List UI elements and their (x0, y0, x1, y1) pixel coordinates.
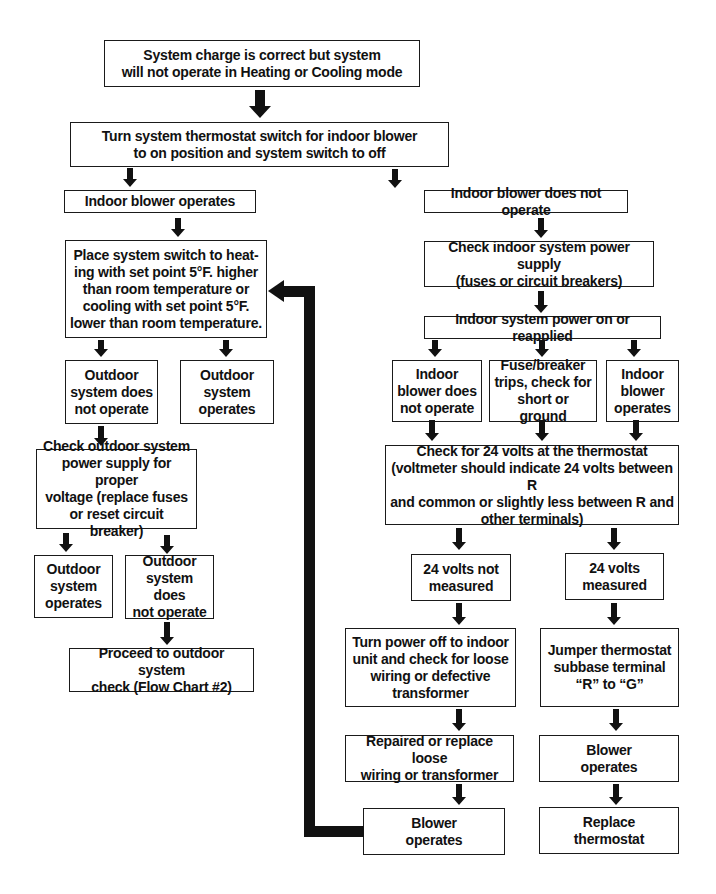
blower-operates-r-text: Blower operates (581, 742, 638, 776)
outdoor-operates-text: Outdoor system operates (199, 367, 256, 418)
step-thermostat-text: Turn system thermostat switch for indoor… (102, 128, 418, 162)
blower-not-operate-box: Indoor blower does not operate (392, 360, 482, 422)
blower-operates-l-box: Blower operates (363, 808, 505, 855)
step-thermostat-box: Turn system thermostat switch for indoor… (70, 122, 449, 167)
feedback-line-vertical (304, 286, 315, 837)
jumper-text: Jumper thermostat subbase terminal “R” t… (548, 642, 671, 693)
indoor-blower-not-operate-box: Indoor blower does not operate (424, 190, 628, 213)
feedback-arrow-head-icon (268, 280, 284, 302)
proceed-text: Proceed to outdoor system check (Flow Ch… (74, 645, 249, 696)
check-24v-box: Check for 24 volts at the thermostat (vo… (385, 445, 679, 525)
blower-operates-text: Indoor blower operates (614, 366, 671, 417)
blower-operates-r-box: Blower operates (539, 735, 679, 782)
start-box: System charge is correct but system will… (104, 40, 420, 87)
outdoor-operates-2-box: Outdoor system operates (34, 555, 113, 618)
indoor-blower-not-operate-text: Indoor blower does not operate (429, 185, 623, 219)
check-indoor-power-text: Check indoor system power supply (fuses … (429, 239, 649, 290)
outdoor-not-operate-text: Outdoor system does not operate (70, 367, 153, 418)
outdoor-not-operate-2-box: Outdoor system does not operate (125, 555, 214, 619)
feedback-line-horizontal-top (283, 286, 315, 297)
check-indoor-power-box: Check indoor system power supply (fuses … (424, 241, 654, 287)
check-outdoor-power-box: Check outdoor system power supply for pr… (36, 449, 197, 529)
outdoor-operates-box: Outdoor system operates (180, 360, 274, 424)
measured-text: 24 volts measured (582, 560, 647, 594)
fuse-trips-box: Fuse/breaker trips, check for short or g… (489, 360, 597, 422)
indoor-blower-operates-box: Indoor blower operates (64, 190, 256, 213)
outdoor-not-operate-2-text: Outdoor system does not operate (130, 553, 209, 621)
blower-operates-box: Indoor blower operates (606, 360, 679, 422)
start-text: System charge is correct but system will… (122, 47, 403, 81)
repaired-text: Repaired or replace loose wiring or tran… (350, 733, 509, 784)
not-measured-box: 24 volts not measured (411, 554, 511, 601)
outdoor-operates-2-text: Outdoor system operates (45, 561, 102, 612)
repaired-box: Repaired or replace loose wiring or tran… (345, 735, 514, 782)
not-measured-text: 24 volts not measured (423, 561, 498, 595)
turn-power-off-text: Turn power off to indoor unit and check … (352, 634, 509, 702)
blower-not-operate-text: Indoor blower does not operate (397, 366, 476, 417)
check-24v-text: Check for 24 volts at the thermostat (vo… (390, 443, 674, 528)
turn-power-off-box: Turn power off to indoor unit and check … (345, 628, 516, 707)
replace-thermostat-text: Replace thermostat (574, 814, 644, 848)
proceed-box: Proceed to outdoor system check (Flow Ch… (69, 648, 254, 692)
measured-box: 24 volts measured (565, 553, 664, 600)
place-switch-text: Place system switch to heat- ing with se… (70, 247, 262, 332)
outdoor-not-operate-box: Outdoor system does not operate (65, 360, 158, 424)
indoor-blower-operates-text: Indoor blower operates (85, 193, 235, 210)
replace-thermostat-box: Replace thermostat (539, 807, 679, 854)
check-outdoor-power-text: Check outdoor system power supply for pr… (41, 438, 192, 540)
power-on-box: Indoor system power on or reapplied (424, 316, 661, 339)
place-switch-box: Place system switch to heat- ing with se… (65, 240, 267, 338)
blower-operates-l-text: Blower operates (406, 815, 463, 849)
jumper-box: Jumper thermostat subbase terminal “R” t… (540, 628, 679, 707)
fuse-trips-text: Fuse/breaker trips, check for short or g… (494, 357, 592, 425)
